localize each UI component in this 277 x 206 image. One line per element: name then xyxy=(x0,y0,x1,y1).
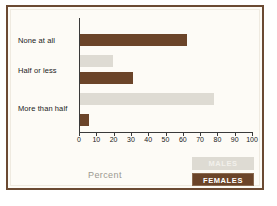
legend-item-females: FEMALES xyxy=(192,173,254,186)
bar-half-or-less-males xyxy=(80,55,113,67)
category-label-half-or-less: Half or less xyxy=(18,66,57,75)
category-label-none-at-all: None at all xyxy=(18,36,55,45)
bar-more-than-half-females xyxy=(80,114,89,126)
bar-none-at-all-females xyxy=(80,34,187,46)
bar-more-than-half-males xyxy=(80,93,214,105)
x-tick-label-100: 100 xyxy=(242,136,262,143)
bar-half-or-less-females xyxy=(80,72,133,84)
legend-item-males: MALES xyxy=(192,157,254,170)
x-axis-title: Percent xyxy=(88,170,122,180)
category-label-more-than-half: More than half xyxy=(18,104,67,113)
y-axis-line xyxy=(79,18,80,132)
